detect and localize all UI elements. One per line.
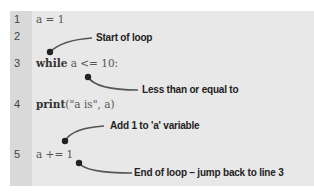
arrow-add-one [65,126,104,141]
arrow-less-than [88,77,138,90]
annotation-arrows [0,0,314,192]
dot-start-of-loop-icon [47,49,53,55]
annotation-end-of-loop: End of loop – jump back to line 3 [134,167,284,178]
annotation-start-of-loop: Start of loop [96,32,152,43]
arrow-start-of-loop [50,38,92,52]
arrow-end-of-loop [79,163,132,173]
dot-less-than-icon [85,74,91,80]
annotation-add-one: Add 1 to 'a' variable [110,120,199,131]
dot-add-one-icon [62,138,68,144]
dot-end-of-loop-icon [76,160,82,166]
annotation-less-than: Less than or equal to [142,84,238,95]
